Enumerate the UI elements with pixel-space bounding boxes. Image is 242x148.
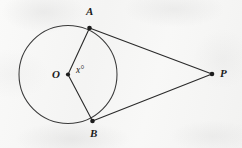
diagram-canvas — [0, 0, 242, 148]
vertex-label-p: P — [220, 68, 227, 79]
angle-label-x: x° — [76, 66, 84, 76]
vertex-dot-o — [66, 72, 70, 76]
segment-bp — [93, 74, 213, 121]
vertex-label-b: B — [90, 128, 97, 139]
vertex-dot-p — [210, 72, 215, 77]
vertex-label-a: A — [86, 6, 93, 17]
vertex-dot-b — [90, 119, 95, 124]
geometry-figure: A B O P x° — [0, 0, 242, 148]
segment-ap — [90, 28, 213, 74]
vertex-label-o: O — [52, 69, 60, 80]
segment-ob — [68, 75, 93, 122]
vertex-dot-a — [87, 26, 92, 31]
